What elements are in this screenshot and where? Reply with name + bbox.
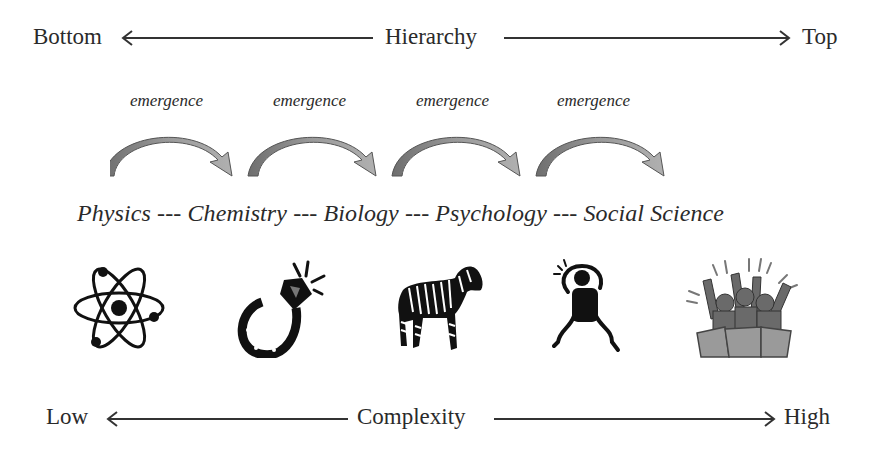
arrow-left-icon — [120, 28, 375, 48]
hierarchy-left-label: Bottom — [33, 24, 102, 50]
cheering-crowd-icon — [683, 257, 808, 361]
curved-arrow-icon — [392, 137, 520, 176]
emergence-label-2: emergence — [273, 91, 346, 111]
hierarchy-center-label: Hierarchy — [385, 24, 477, 50]
curved-arrow-icon — [248, 137, 376, 176]
emergence-label-3: emergence — [416, 91, 489, 111]
complexity-left-label: Low — [46, 404, 88, 430]
curved-arrow-icon — [110, 137, 232, 176]
hierarchy-right-label: Top — [802, 24, 837, 50]
complexity-center-label: Complexity — [357, 404, 466, 430]
zebra-icon — [393, 262, 488, 354]
arrow-right-icon — [492, 409, 777, 429]
complexity-right-label: High — [784, 404, 830, 430]
sciences-sequence: Physics --- Chemistry --- Biology --- Ps… — [77, 200, 724, 227]
emergence-arrows — [110, 130, 710, 190]
diamond-ring-icon — [230, 258, 330, 358]
emergence-label-4: emergence — [557, 91, 630, 111]
curved-arrow-icon — [536, 137, 664, 176]
arrow-right-icon — [502, 28, 792, 48]
arrow-left-icon — [105, 409, 350, 429]
emergence-label-1: emergence — [130, 91, 203, 111]
atom-icon — [70, 262, 168, 354]
distressed-person-icon — [552, 258, 622, 360]
